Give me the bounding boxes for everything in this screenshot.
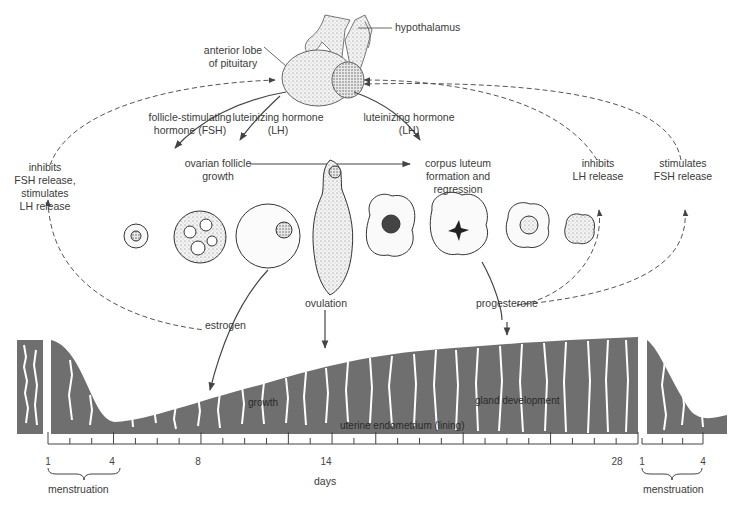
axis-tick-label: 14 [320,456,331,467]
axis-tick-label: 1 [639,456,645,467]
inhibits-lh-label: inhibits LH release [560,157,636,183]
growth-label: growth [248,397,278,408]
menstruation-brace-left [48,468,120,480]
ovarian-follicle-growth-label: ovarian follicle growth [178,157,258,183]
axis-tick-label: 4 [109,456,115,467]
estrogen-label: estrogen [205,319,246,332]
gland-development-label: gland development [475,395,560,406]
ovulation-label: ovulation [305,297,347,310]
progesterone-label: progesterone [476,297,538,310]
corpus-luteum-label: corpus luteum formation and regression [418,157,498,196]
hypothalamus-label: hypothalamus [395,21,460,34]
lh-left-label: luteinizing hormone (LH) [228,111,328,137]
axis-tick-label: 28 [611,456,622,467]
fsh-label: follicle-stimulating hormone (FSH) [140,111,240,137]
lh-right-label: luteinizing hormone (LH) [359,111,459,137]
inhibits-fsh-label: inhibits FSH release, stimulates LH rele… [10,161,80,213]
uterine-endometrium-label: uterine endometrium (lining) [340,420,465,431]
menstruation-label-left: menstruation [48,483,109,496]
anterior-lobe-leader [264,47,286,66]
menstruation-label-right: menstruation [643,483,704,496]
anterior-lobe-label: anterior lobe of pituitary [200,44,266,70]
stimulates-fsh-label: stimulates FSH release [643,157,723,183]
menstruation-brace-right [642,468,702,480]
pituitary-gland-illustration [282,15,372,106]
axis-tick-label: 4 [700,456,706,467]
days-axis [48,432,703,480]
axis-tick-label: 1 [45,456,51,467]
axis-tick-label: 8 [195,456,201,467]
axis-title: days [314,475,336,488]
